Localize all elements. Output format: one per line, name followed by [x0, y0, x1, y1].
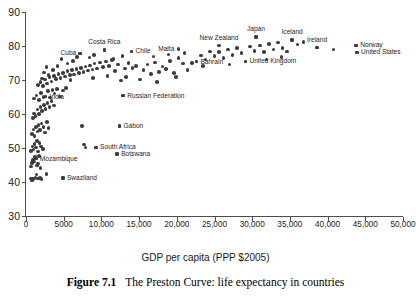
y-tick-label: 30 [8, 211, 20, 222]
data-point [119, 79, 123, 83]
y-tick [22, 12, 26, 13]
data-point [157, 70, 161, 74]
point-annotation: Malta [158, 46, 174, 53]
data-point [70, 68, 74, 72]
point-annotation: India [50, 93, 64, 100]
data-point [168, 59, 172, 63]
data-point-labeled [121, 94, 125, 98]
data-point-labeled [244, 60, 248, 64]
data-point-labeled [94, 146, 98, 150]
data-point [258, 44, 262, 48]
y-tick [22, 46, 26, 47]
data-point [138, 78, 142, 82]
y-tick-label: 50 [8, 143, 20, 154]
data-point [98, 61, 102, 65]
data-point-labeled [115, 152, 119, 156]
data-point [41, 84, 45, 88]
y-tick [22, 80, 26, 81]
data-point [84, 65, 88, 69]
data-point [152, 55, 156, 59]
data-point [36, 83, 40, 87]
data-point [106, 74, 110, 78]
x-tick-label: 35,000 [277, 221, 302, 229]
data-point [48, 105, 52, 109]
data-point [332, 48, 336, 52]
data-point [66, 69, 70, 73]
data-point [121, 54, 125, 58]
data-point [93, 62, 97, 66]
data-point [88, 64, 92, 68]
data-point [60, 57, 64, 61]
data-point [39, 166, 43, 170]
data-point-labeled [354, 44, 358, 48]
x-tick-label: 45,000 [353, 221, 378, 229]
data-point [56, 64, 60, 68]
data-point [44, 107, 48, 111]
x-axis-title: GDP per capita (PPP $2005) [0, 252, 411, 263]
data-point [72, 73, 76, 77]
data-point-labeled [130, 50, 134, 54]
x-tick-label: 50,000 [390, 221, 415, 229]
data-point [181, 62, 185, 66]
data-point-labeled [61, 176, 65, 180]
point-annotation: Costa Rica [88, 39, 120, 46]
data-point [174, 75, 178, 79]
data-point [116, 63, 120, 67]
data-point [253, 49, 257, 53]
data-point [276, 41, 280, 45]
data-point [153, 61, 157, 65]
data-point [183, 51, 187, 55]
data-point [42, 71, 46, 75]
data-point [71, 59, 75, 63]
data-point [226, 48, 230, 52]
point-annotation: Russian Federation [127, 92, 184, 99]
data-point [39, 80, 43, 84]
data-point [142, 68, 146, 72]
data-point-labeled [44, 95, 48, 99]
data-point [267, 42, 271, 46]
data-point [134, 64, 138, 68]
data-point [88, 56, 92, 60]
data-point [57, 72, 61, 76]
point-annotation: United States [361, 49, 401, 56]
y-tick-label: 60 [8, 109, 20, 120]
data-point [190, 61, 194, 65]
data-point [231, 53, 235, 57]
point-annotation: Swaziland [67, 175, 97, 182]
y-tick-label: 90 [8, 7, 20, 18]
point-annotation: Chile [136, 48, 151, 55]
data-point [86, 69, 90, 73]
data-point [149, 72, 153, 76]
x-tick-label: 15,000 [127, 221, 152, 229]
point-annotation: Bahrain [200, 58, 223, 65]
data-point [37, 98, 41, 102]
data-point-labeled [103, 48, 107, 52]
data-point [248, 45, 252, 49]
x-tick-label: 5000 [55, 221, 73, 229]
data-point [235, 46, 239, 50]
data-point [112, 57, 116, 61]
data-point [46, 101, 50, 105]
data-point [155, 80, 159, 84]
data-point-labeled [177, 47, 181, 51]
data-point [302, 40, 306, 44]
data-point [47, 126, 51, 130]
data-point [32, 97, 36, 101]
data-point [164, 67, 168, 71]
y-tick-label: 70 [8, 75, 20, 86]
data-point [95, 67, 99, 71]
data-point [54, 77, 58, 81]
data-point [104, 60, 108, 64]
data-point [43, 78, 47, 82]
data-point [79, 66, 83, 70]
data-point [36, 162, 40, 166]
y-tick [22, 182, 26, 183]
point-annotation: Ireland [307, 36, 327, 43]
data-point [75, 67, 79, 71]
data-point [50, 80, 54, 84]
y-tick [22, 114, 26, 115]
data-point [64, 86, 68, 90]
data-point [281, 46, 285, 50]
x-tick-label: 40,000 [315, 221, 340, 229]
